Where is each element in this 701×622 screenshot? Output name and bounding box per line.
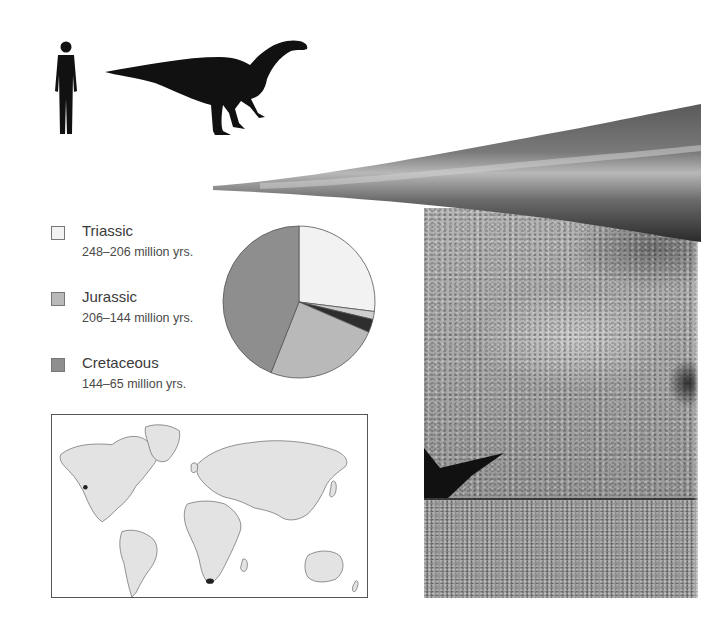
- triassic-swatch: [51, 226, 65, 240]
- photo-ground: [424, 500, 698, 598]
- south-america: [120, 530, 157, 597]
- north-america: [60, 436, 157, 521]
- british-isles: [191, 463, 198, 473]
- australia: [305, 551, 343, 582]
- photo-edge: [694, 208, 698, 598]
- jurassic-swatch: [51, 292, 65, 306]
- human-silhouette-icon: [55, 42, 77, 135]
- dinosaur-silhouette-icon: [105, 40, 307, 135]
- scale-silhouettes: [45, 35, 325, 145]
- legend-item-triassic: Triassic 248–206 million yrs.: [51, 222, 221, 288]
- cretaceous-swatch: [51, 358, 65, 372]
- period-legend: Triassic 248–206 million yrs. Jurassic 2…: [51, 222, 221, 420]
- madagascar: [241, 559, 248, 571]
- fossil-site-north-america-icon: [83, 485, 88, 490]
- legend-label: Jurassic: [82, 288, 137, 306]
- legend-item-jurassic: Jurassic 206–144 million yrs.: [51, 288, 221, 354]
- legend-range: 206–144 million yrs.: [82, 310, 193, 326]
- dinosaur-photo: [424, 208, 698, 598]
- period-pie-chart: [221, 224, 377, 380]
- legend-label: Triassic: [82, 222, 133, 240]
- pie-slice: [299, 226, 375, 312]
- legend-range: 248–206 million yrs.: [82, 244, 193, 260]
- legend-item-cretaceous: Cretaceous 144–65 million yrs.: [51, 354, 221, 420]
- japan: [330, 481, 337, 497]
- new-zealand: [352, 581, 358, 592]
- legend-range: 144–65 million yrs.: [82, 376, 186, 392]
- africa: [184, 501, 241, 583]
- fossil-distribution-map: [51, 414, 368, 598]
- legend-label: Cretaceous: [82, 354, 159, 372]
- fossil-site-africa-icon: [206, 579, 214, 584]
